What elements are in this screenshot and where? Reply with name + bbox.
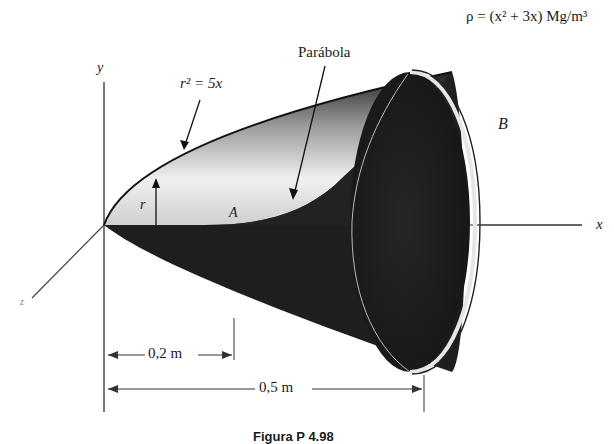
point-b-label: B <box>498 115 508 133</box>
radius-label: r <box>140 197 145 213</box>
outer-curve-pointer <box>185 100 200 145</box>
figure-caption: Figura P 4.98 <box>253 429 334 444</box>
dimension-short: 0,2 m <box>148 345 182 362</box>
outer-curve-label: r² = 5x <box>180 75 222 92</box>
x-axis-label: x <box>596 216 603 233</box>
density-formula: ρ = (x² + 3x) Mg/m³ <box>466 8 587 25</box>
z-axis <box>32 225 104 298</box>
end-face-B <box>350 72 470 372</box>
parabola-label: Parábola <box>298 44 350 61</box>
y-axis-label: y <box>97 60 103 76</box>
point-a-label: A <box>229 205 238 221</box>
z-axis-label: z <box>20 296 24 307</box>
dimension-long: 0,5 m <box>259 379 293 396</box>
